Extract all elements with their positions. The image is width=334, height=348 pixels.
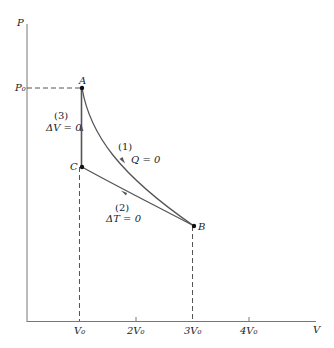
4v0-tick-label: 4V₀ [239, 325, 258, 336]
point-c-label: C [70, 161, 78, 172]
y-axis-label: P [16, 17, 24, 28]
point-b-label: B [197, 221, 205, 232]
point-b-dot [192, 224, 196, 228]
process-3-condition: ΔV = 0 [45, 122, 82, 133]
process-1-arrow-icon [120, 157, 126, 164]
3v0-tick-label: 3V₀ [184, 325, 202, 336]
2v0-tick-label: 2V₀ [126, 325, 145, 336]
process-1-condition: Q = 0 [131, 154, 161, 165]
v0-tick-label: V₀ [74, 325, 85, 336]
point-c-dot [80, 165, 84, 169]
process-1-id: (1) [118, 141, 132, 152]
p0-tick-label: P₀ [14, 82, 26, 93]
process-2-id: (2) [115, 202, 129, 213]
process-2-condition: ΔT = 0 [105, 213, 142, 224]
x-axis-label: V [313, 324, 322, 335]
point-a-dot [80, 86, 84, 90]
point-a-label: A [78, 75, 86, 86]
pv-diagram: P V P₀ V₀ 2V₀ 3V₀ 4V₀ A B C (3) ΔV = 0 (… [0, 0, 334, 348]
process-3-id: (3) [54, 110, 68, 121]
